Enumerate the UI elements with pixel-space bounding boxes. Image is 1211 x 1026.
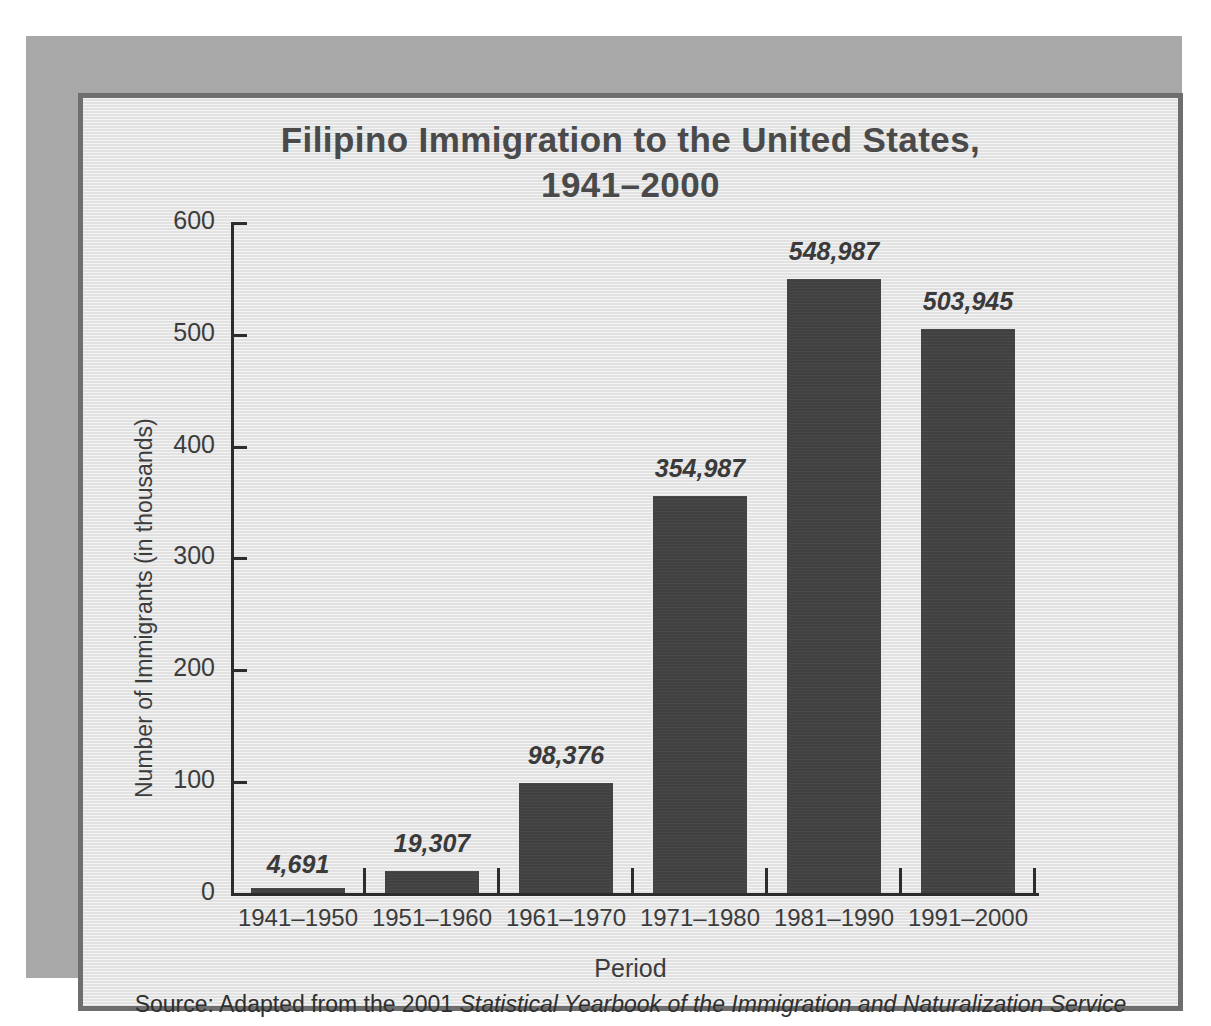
bar-value-1951-1960: 19,307 [362, 829, 502, 858]
source-note-prefix: Source: Adapted from the 2001 [135, 991, 460, 1017]
bar-value-1941-1950: 4,691 [228, 850, 368, 879]
y-tick-label-200: 200 [135, 653, 215, 682]
y-tick-label-100: 100 [135, 765, 215, 794]
x-category-label-1941-1950: 1941–1950 [228, 904, 368, 932]
y-tick-300 [231, 557, 247, 560]
source-note: Source: Adapted from the 2001 Statistica… [83, 991, 1178, 1018]
bar-1941-1950[interactable] [251, 888, 345, 893]
bar-value-1981-1990: 548,987 [764, 237, 904, 266]
bar-value-1991-2000: 503,945 [898, 287, 1038, 316]
y-tick-400 [231, 446, 247, 449]
y-tick-label-400: 400 [135, 430, 215, 459]
chart-title-line-1: Filipino Immigration to the United State… [281, 120, 980, 159]
y-tick-label-0: 0 [135, 877, 215, 906]
bar-value-1971-1980: 354,987 [630, 454, 770, 483]
x-tick-2 [497, 868, 500, 894]
x-tick-4 [765, 868, 768, 894]
bar-1981-1990[interactable] [787, 279, 881, 893]
figure-outer-mat: Filipino Immigration to the United State… [26, 36, 1182, 978]
bar-value-1961-1970: 98,376 [496, 741, 636, 770]
chart-panel: Filipino Immigration to the United State… [78, 93, 1183, 1011]
y-axis-title: Number of Immigrants (in thousands) [131, 418, 158, 798]
y-tick-label-600: 600 [135, 206, 215, 235]
x-category-label-1951-1960: 1951–1960 [362, 904, 502, 932]
bar-1951-1960[interactable] [385, 871, 479, 893]
y-tick-200 [231, 669, 247, 672]
x-tick-6 [1033, 868, 1036, 894]
y-tick-500 [231, 334, 247, 337]
x-category-label-1971-1980: 1971–1980 [630, 904, 770, 932]
x-axis-line [231, 893, 1039, 896]
chart-title-line-2: 1941–2000 [83, 163, 1178, 208]
chart-title: Filipino Immigration to the United State… [83, 118, 1178, 208]
y-tick-label-500: 500 [135, 318, 215, 347]
x-category-label-1981-1990: 1981–1990 [764, 904, 904, 932]
x-tick-3 [631, 868, 634, 894]
bar-1991-2000[interactable] [921, 329, 1015, 893]
x-category-label-1961-1970: 1961–1970 [496, 904, 636, 932]
y-tick-100 [231, 781, 247, 784]
bar-1971-1980[interactable] [653, 496, 747, 893]
y-tick-label-300: 300 [135, 541, 215, 570]
bar-1961-1970[interactable] [519, 783, 613, 893]
x-axis-title: Period [83, 954, 1178, 983]
y-tick-600 [231, 222, 247, 225]
x-category-label-1991-2000: 1991–2000 [898, 904, 1038, 932]
x-tick-5 [899, 868, 902, 894]
source-note-title: Statistical Yearbook of the Immigration … [459, 991, 1126, 1017]
